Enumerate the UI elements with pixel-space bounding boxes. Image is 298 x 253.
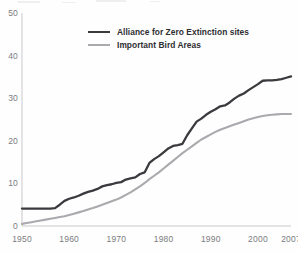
series-line-important-bird-areas [22, 114, 291, 224]
x-axis-tick-label: 2000 [241, 234, 275, 244]
y-axis-tick-label: 10 [2, 178, 18, 188]
y-axis-tick-label: 50 [2, 8, 18, 18]
x-axis-tick-label: 2007 [274, 234, 298, 244]
x-axis-tick-label: 1990 [194, 234, 228, 244]
legend-item: Alliance for Zero Extinction sites [88, 26, 278, 37]
legend-item-label: Important Bird Areas [117, 40, 201, 50]
y-axis-tick-label: 0 [2, 221, 18, 231]
chart-legend: Alliance for Zero Extinction sites Impor… [88, 26, 278, 52]
chart-figure: 01020304050 1950196019701980199020002007… [0, 0, 298, 253]
y-axis-tick-label: 30 [2, 93, 18, 103]
series-line-alliance-for-zero-extinction-sites [22, 76, 291, 208]
y-axis-tick-label: 40 [2, 51, 18, 61]
legend-item: Important Bird Areas [88, 39, 278, 50]
x-axis-tick-label: 1960 [52, 234, 86, 244]
legend-swatch-icon [88, 31, 110, 33]
legend-item-label: Alliance for Zero Extinction sites [117, 27, 249, 37]
legend-swatch-icon [88, 44, 110, 46]
x-axis-tick-label: 1970 [99, 234, 133, 244]
x-axis-tick-label: 1950 [5, 234, 39, 244]
x-axis-tick-label: 1980 [147, 234, 181, 244]
y-axis-tick-label: 20 [2, 136, 18, 146]
